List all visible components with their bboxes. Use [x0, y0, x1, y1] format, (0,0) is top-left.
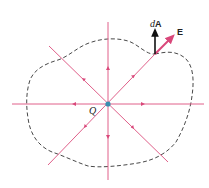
- arrow-right-icon: [141, 102, 145, 106]
- field-vector-arrow: [155, 37, 172, 54]
- arrow-down-icon: [106, 135, 110, 139]
- arrow-up-icon: [106, 66, 110, 70]
- arrow-left-icon: [72, 102, 76, 106]
- area-vector-label: dA: [150, 18, 162, 29]
- field-lines: [12, 22, 204, 180]
- field-line-diag-bl-tr: [48, 54, 155, 165]
- point-charge: [105, 101, 110, 106]
- charge-label: Q: [89, 105, 97, 116]
- field-vector-label: E: [177, 27, 183, 37]
- arrow-upper-left-icon: [82, 78, 86, 81]
- gauss-law-diagram: Q dA E: [0, 0, 209, 188]
